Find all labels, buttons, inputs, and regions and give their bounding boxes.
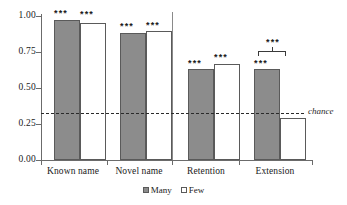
x-axis-label-extension: Extension (240, 166, 310, 177)
x-tick-mark (41, 161, 42, 165)
legend-item-many: Many (143, 185, 172, 195)
x-axis-label-retention: Retention (173, 166, 239, 177)
legend-item-few: Few (181, 185, 205, 195)
x-tick-mark (107, 161, 108, 165)
significance-known-name-few: *** (74, 10, 100, 18)
legend-swatch-many-icon (143, 187, 149, 193)
y-tick-label: 0.00 (0, 155, 36, 165)
chance-reference-line (41, 113, 304, 114)
chance-line-label: chance (308, 107, 333, 116)
x-tick-mark (312, 161, 313, 165)
y-tick-label: 1.00 (0, 11, 36, 21)
significance-retention-few: *** (208, 53, 234, 61)
bar-extension-few (280, 118, 306, 161)
significance-novel-name-many: *** (114, 22, 140, 30)
y-tick-label: 0.25 (0, 119, 36, 129)
legend-label-many: Many (151, 185, 172, 195)
legend-swatch-few-icon (181, 187, 187, 193)
significance-retention-many: *** (182, 59, 208, 67)
significance-extension-pair: *** (259, 38, 287, 46)
extension-pair-bracket-nub (272, 47, 273, 52)
bar-extension-many (254, 69, 280, 160)
chart-legend: Many Few (0, 185, 347, 195)
significance-novel-name-few: *** (140, 21, 166, 29)
bar-novel-name-few (146, 31, 172, 160)
bar-known-name-many (54, 20, 80, 160)
bar-novel-name-many (120, 33, 146, 160)
x-axis-line (41, 160, 313, 161)
bar-chart: 1.00 0.75 0.50 0.25 0.00 chance *** *** … (0, 0, 347, 205)
legend-label-few: Few (189, 185, 205, 195)
x-tick-mark (172, 161, 173, 165)
x-axis-label-novel-name: Novel name (106, 166, 172, 177)
y-tick-label: 0.75 (0, 47, 36, 57)
bar-retention-many (188, 69, 214, 160)
x-tick-mark (239, 161, 240, 165)
significance-known-name-many: *** (48, 9, 74, 17)
significance-extension-many: *** (248, 59, 274, 67)
bar-known-name-few (80, 23, 106, 161)
y-tick-label: 0.50 (0, 83, 36, 93)
x-axis-label-known-name: Known name (40, 166, 106, 177)
